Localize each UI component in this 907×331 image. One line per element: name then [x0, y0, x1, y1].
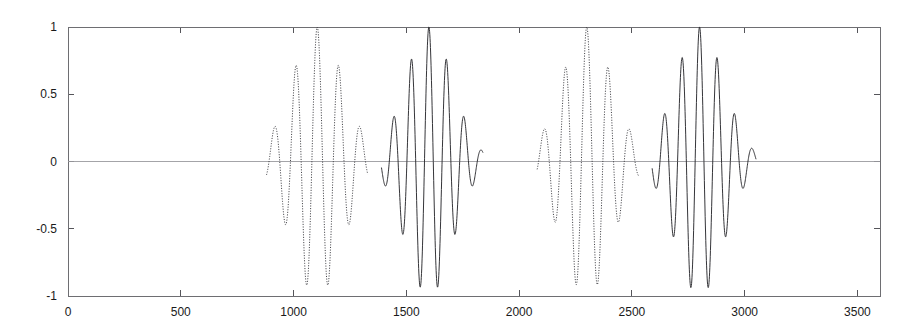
- y-tick-label: -0.5: [36, 222, 57, 236]
- waveform-plot: -1-0.500.51 0500100015002000250030003500: [0, 0, 907, 331]
- x-tick-label: 0: [65, 305, 72, 319]
- y-tick-label: 1: [50, 20, 57, 34]
- chart-figure: -1-0.500.51 0500100015002000250030003500: [0, 0, 907, 331]
- x-tick-label: 2500: [619, 305, 646, 319]
- y-tick-label: 0: [50, 155, 57, 169]
- y-tick-label: 0.5: [40, 87, 57, 101]
- y-tick-label: -1: [46, 289, 57, 303]
- x-tick-label: 2000: [506, 305, 533, 319]
- plot-background: [0, 0, 907, 331]
- x-tick-label: 1500: [393, 305, 420, 319]
- x-tick-label: 500: [171, 305, 191, 319]
- x-tick-label: 1000: [280, 305, 307, 319]
- x-tick-label: 3000: [731, 305, 758, 319]
- x-tick-label: 3500: [844, 305, 871, 319]
